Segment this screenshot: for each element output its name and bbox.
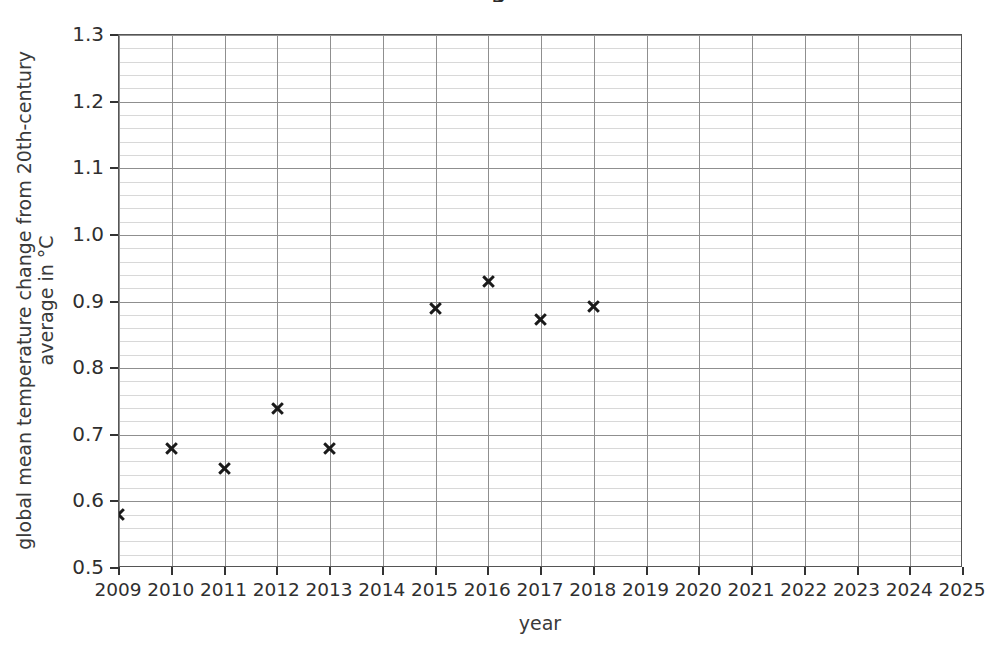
gridline-horizontal-minor [119,408,961,409]
x-axis-tick-label: 2023 [833,581,880,600]
gridline-horizontal-minor [119,541,961,542]
y-axis-tick-label: 1.1 [72,157,104,177]
gridline-horizontal-minor [119,475,961,476]
x-axis-tick [329,567,331,575]
gridline-horizontal-minor [119,395,961,396]
gridline-horizontal-minor [119,341,961,342]
scatter-chart: g 0.50.60.70.80.91.01.11.21.3 2009201020… [0,0,997,646]
gridline-vertical-major [699,35,700,566]
y-axis-tick [110,301,118,303]
gridline-horizontal-minor [119,461,961,462]
gridline-horizontal-major [119,435,961,436]
data-point-marker [118,506,128,523]
gridline-horizontal-minor [119,528,961,529]
gridline-vertical-major [647,35,648,566]
x-axis-tick [118,567,120,575]
y-axis-tick [110,567,118,569]
x-axis-tick [540,567,542,575]
y-axis-title: global mean temperature change from 20th… [13,20,58,580]
gridline-horizontal-minor [119,75,961,76]
data-point-marker [163,440,180,457]
gridline-horizontal-minor [119,142,961,143]
chart-title-fragment: g [0,0,997,2]
x-axis-tick [224,567,226,575]
gridline-vertical-major [225,35,226,566]
gridline-vertical-major [172,35,173,566]
gridline-horizontal-major [119,302,961,303]
gridline-horizontal-major [119,368,961,369]
x-axis-tick-label: 2014 [358,581,405,600]
x-axis-tick [751,567,753,575]
x-axis-tick [487,567,489,575]
y-axis-title-line-1: global mean temperature change from 20th… [13,20,35,580]
y-axis-tick-label: 1.2 [72,91,104,111]
gridlines [119,35,961,566]
y-axis-tick [110,367,118,369]
x-axis-tick-label: 2024 [886,581,933,600]
data-point-marker [269,400,286,417]
x-axis-tick [382,567,384,575]
x-axis-tick-label: 2013 [305,581,352,600]
gridline-horizontal-minor [119,381,961,382]
data-point-marker [585,298,602,315]
gridline-horizontal-minor [119,88,961,89]
gridline-horizontal-major [119,235,961,236]
gridline-horizontal-major [119,168,961,169]
gridline-vertical-major [541,35,542,566]
y-axis-tick-label: 0.9 [72,291,104,311]
x-axis-tick [646,567,648,575]
y-axis-tick-label: 0.5 [72,557,104,577]
gridline-horizontal-major [119,35,961,36]
gridline-horizontal-minor [119,555,961,556]
gridline-horizontal-minor [119,182,961,183]
gridline-vertical-major [277,35,278,566]
gridline-horizontal-minor [119,115,961,116]
y-axis-tick-label: 0.8 [72,357,104,377]
gridline-vertical-major [752,35,753,566]
x-axis-tick-label: 2020 [675,581,722,600]
x-axis-tick [276,567,278,575]
x-axis-tick-label: 2009 [94,581,141,600]
gridline-horizontal-minor [119,448,961,449]
x-axis-title: year [118,612,962,634]
y-axis-tick-label: 1.0 [72,224,104,244]
x-axis-tick-label: 2018 [569,581,616,600]
x-axis-tick-label: 2012 [253,581,300,600]
gridline-vertical-major [119,35,120,566]
x-axis-tick [804,567,806,575]
data-point-marker [216,460,233,477]
gridline-horizontal-minor [119,222,961,223]
x-axis-tick [435,567,437,575]
gridline-horizontal-major [119,102,961,103]
y-axis-tick-label: 1.3 [72,24,104,44]
gridline-vertical-major [383,35,384,566]
gridline-horizontal-minor [119,128,961,129]
y-axis-tick [110,167,118,169]
gridline-vertical-major [910,35,911,566]
gridline-vertical-major [488,35,489,566]
data-point-marker [322,440,339,457]
x-axis-tick [698,567,700,575]
x-axis-tick [171,567,173,575]
x-axis-tick-label: 2015 [411,581,458,600]
gridline-horizontal-minor [119,355,961,356]
y-axis-tick-label: 0.6 [72,490,104,510]
y-axis-tick [110,500,118,502]
y-axis-tick [110,234,118,236]
gridline-vertical-major [858,35,859,566]
gridline-horizontal-minor [119,248,961,249]
gridline-horizontal-minor [119,275,961,276]
x-axis-tick-label: 2019 [622,581,669,600]
gridline-horizontal-minor [119,421,961,422]
gridline-horizontal-minor [119,262,961,263]
gridline-horizontal-minor [119,208,961,209]
x-axis-tick-label: 2010 [147,581,194,600]
x-axis-tick-label: 2011 [200,581,247,600]
gridline-horizontal-minor [119,488,961,489]
gridline-horizontal-minor [119,155,961,156]
data-point-marker [427,300,444,317]
x-axis-tick [962,567,964,575]
gridline-horizontal-minor [119,48,961,49]
gridline-horizontal-minor [119,288,961,289]
data-point-marker [480,273,497,290]
